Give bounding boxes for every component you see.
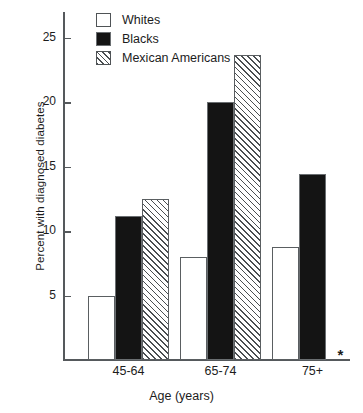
x-tick-label-75plus: 75+ [302, 364, 323, 378]
x-tick-label-65-74: 65-74 [205, 364, 237, 378]
bar-45-64-blacks [115, 216, 142, 360]
y-tick-mark [63, 231, 71, 232]
x-axis-title: Age (years) [0, 389, 363, 403]
y-tick-mark [63, 102, 71, 103]
y-axis-line [63, 12, 65, 360]
y-tick-mark [63, 167, 71, 168]
bar-65-74-mexican-americans [234, 55, 261, 360]
bar-45-64-mexican-americans [142, 199, 169, 360]
bar-chart: Percent with diagnosed diabetes Whites B… [0, 0, 363, 413]
bar-45-64-whites [88, 296, 115, 360]
bar-65-74-blacks [207, 102, 234, 360]
y-tick-label: 20 [43, 94, 56, 108]
y-tick-label: 15 [43, 159, 56, 173]
y-tick-label: 25 [43, 30, 56, 44]
bar-75plus-whites [272, 247, 299, 360]
plot-area: 510152025 * [63, 12, 350, 360]
bar-65-74-whites [180, 257, 207, 360]
y-tick-label: 10 [43, 223, 56, 237]
y-tick-mark [63, 296, 71, 297]
missing-data-marker: * [338, 351, 344, 359]
y-tick-label: 5 [49, 288, 56, 302]
bar-75plus-blacks [299, 174, 326, 360]
x-tick-label-45-64: 45-64 [113, 364, 145, 378]
y-tick-mark [63, 38, 71, 39]
